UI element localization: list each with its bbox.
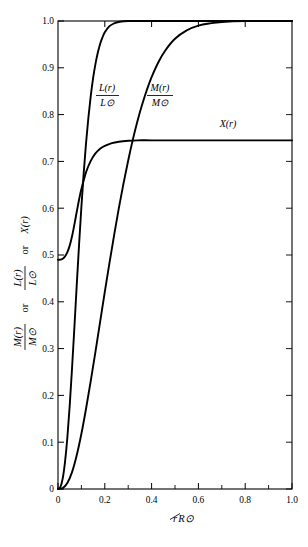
curve-label-X: X(r) (219, 118, 237, 130)
y-tick-label: 0.5 (42, 250, 54, 260)
curve-label-L: L(r) L⊙ (96, 82, 119, 108)
curve-label-L-denominator: L⊙ (99, 97, 115, 108)
y-tick-label: 0.7 (42, 157, 54, 167)
x-tick-label: 0.6 (193, 495, 205, 505)
y-tick-label: 0.4 (42, 297, 54, 307)
curve-X (58, 140, 292, 259)
x-tick-label: 0.8 (239, 495, 251, 505)
curve-L (58, 21, 292, 489)
y-axis-ticks-right (286, 21, 292, 489)
y-tick-label: 0.1 (42, 438, 54, 448)
y-tick-label: 1.0 (42, 16, 54, 26)
figure-container: 1.0 0.9 0.8 0.7 0.6 0.5 0.4 0.3 0.2 0.1 … (0, 0, 308, 547)
curve-label-L-numerator: L(r) (98, 82, 116, 94)
y-axis-label-M-numerator: M(r) (12, 327, 24, 348)
y-tick-label: 0.3 (42, 344, 54, 354)
x-axis-label-numerator: r (173, 513, 178, 524)
curve-M-tail (58, 21, 292, 489)
chart-svg: 1.0 0.9 0.8 0.7 0.6 0.5 0.4 0.3 0.2 0.1 … (0, 0, 308, 547)
x-tick-label: 0 (56, 495, 61, 505)
y-axis-label-L-denominator: L⊙ (27, 271, 38, 287)
x-axis-label-denominator: R⊙ (177, 513, 193, 524)
x-axis-label: r R⊙ (170, 513, 194, 524)
x-tick-label: 1.0 (286, 495, 298, 505)
y-tick-label: 0 (49, 484, 54, 494)
y-axis-label-conj-2: or (19, 245, 30, 254)
y-tick-label: 0.8 (42, 110, 54, 120)
y-tick-labels: 1.0 0.9 0.8 0.7 0.6 0.5 0.4 0.3 0.2 0.1 … (42, 16, 54, 494)
x-tick-label: 0.4 (146, 495, 158, 505)
curve-label-M-denominator: M⊙ (151, 97, 169, 108)
y-tick-label: 0.6 (42, 204, 54, 214)
y-axis-ticks-left (58, 21, 64, 489)
curve-label-M-numerator: M(r) (150, 82, 171, 94)
y-axis-label-X: X(r) (19, 216, 31, 235)
y-axis-label-M-denominator: M⊙ (27, 328, 38, 347)
x-tick-label: 0.2 (99, 495, 111, 505)
plot-frame (58, 21, 292, 489)
curve-label-M: M(r) M⊙ (147, 82, 173, 108)
x-axis-minor-ticks-bottom (81, 485, 268, 489)
y-tick-label: 0.9 (42, 63, 54, 73)
y-axis-label-L-numerator: L(r) (12, 269, 24, 287)
y-axis-label: M(r) M⊙ or L(r) L⊙ or X(r) (12, 216, 38, 350)
x-tick-labels: 0 0.2 0.4 0.6 0.8 1.0 (56, 495, 299, 505)
y-axis-label-conj-1: or (19, 303, 30, 312)
y-tick-label: 0.2 (42, 391, 54, 401)
